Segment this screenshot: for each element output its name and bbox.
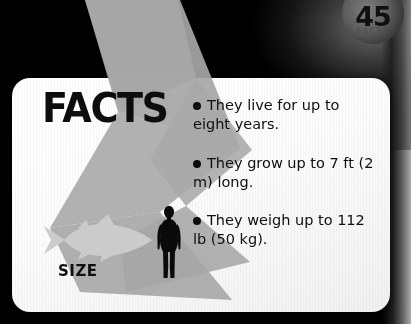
facts-list: They live for up to eight years. They gr… xyxy=(193,96,378,250)
page-number: 45 xyxy=(355,3,391,44)
bullet-dot-icon xyxy=(193,102,201,110)
right-edge-glow-lower xyxy=(387,150,411,324)
page-badge-word: FACTS xyxy=(342,27,404,36)
list-item: They weigh up to 112 lb (50 kg). xyxy=(193,211,378,250)
fish-silhouette-icon xyxy=(38,212,158,266)
list-item-text: They weigh up to 112 lb (50 kg). xyxy=(193,212,365,247)
size-label: SIZE xyxy=(58,262,98,280)
list-item: They live for up to eight years. xyxy=(193,96,378,135)
list-item-text: They live for up to eight years. xyxy=(193,97,339,132)
list-item: They grow up to 7 ft (2 m) long. xyxy=(193,154,378,193)
bullet-dot-icon xyxy=(193,217,201,225)
human-silhouette-icon xyxy=(152,205,186,281)
list-item-text: They grow up to 7 ft (2 m) long. xyxy=(193,155,373,190)
page-title: FACTS xyxy=(42,88,168,129)
page-root: 45 FACTS xyxy=(0,0,411,324)
bullet-dot-icon xyxy=(193,160,201,168)
